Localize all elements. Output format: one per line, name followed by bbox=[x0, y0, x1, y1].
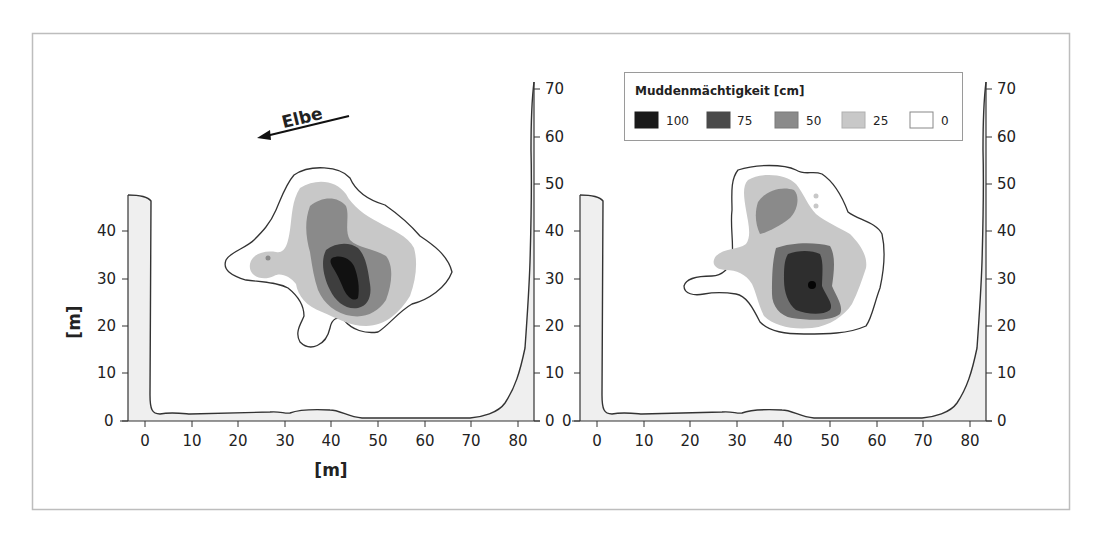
svg-text:0: 0 bbox=[545, 412, 555, 430]
legend-title: Muddenmächtigkeit [cm] bbox=[635, 84, 804, 98]
legend-swatch-100 bbox=[635, 112, 658, 128]
figure: Elbe 0 10 20 30 40 [m] 0 10 20 30 40 50 … bbox=[0, 0, 1101, 536]
svg-text:10: 10 bbox=[545, 364, 564, 382]
svg-text:40: 40 bbox=[773, 432, 792, 450]
svg-text:30: 30 bbox=[545, 270, 564, 288]
svg-text:50: 50 bbox=[820, 432, 839, 450]
svg-text:0: 0 bbox=[104, 412, 114, 430]
svg-text:20: 20 bbox=[228, 432, 247, 450]
legend-swatch-50 bbox=[775, 112, 798, 128]
svg-text:0: 0 bbox=[140, 432, 150, 450]
legend-label-0: 0 bbox=[941, 114, 949, 128]
svg-text:30: 30 bbox=[275, 432, 294, 450]
svg-text:60: 60 bbox=[997, 128, 1016, 146]
legend-swatch-25 bbox=[842, 112, 865, 128]
svg-text:30: 30 bbox=[997, 270, 1016, 288]
legend-label-75: 75 bbox=[737, 114, 752, 128]
svg-text:10: 10 bbox=[97, 364, 116, 382]
svg-text:30: 30 bbox=[727, 432, 746, 450]
svg-text:40: 40 bbox=[97, 222, 116, 240]
svg-text:80: 80 bbox=[508, 432, 527, 450]
legend-box bbox=[625, 73, 963, 141]
legend: Muddenmächtigkeit [cm] 100 75 50 25 0 bbox=[625, 73, 963, 141]
svg-text:20: 20 bbox=[680, 432, 699, 450]
svg-text:60: 60 bbox=[545, 128, 564, 146]
svg-text:50: 50 bbox=[545, 175, 564, 193]
svg-text:80: 80 bbox=[960, 432, 979, 450]
svg-text:20: 20 bbox=[997, 317, 1016, 335]
svg-text:50: 50 bbox=[997, 175, 1016, 193]
svg-text:40: 40 bbox=[997, 222, 1016, 240]
right-max-spot bbox=[808, 281, 816, 289]
svg-text:10: 10 bbox=[634, 432, 653, 450]
svg-text:40: 40 bbox=[321, 432, 340, 450]
svg-text:0: 0 bbox=[592, 432, 602, 450]
left-y-axis-title: [m] bbox=[64, 305, 84, 338]
right-small-spot-1 bbox=[814, 194, 819, 199]
legend-label-100: 100 bbox=[666, 114, 689, 128]
svg-text:60: 60 bbox=[415, 432, 434, 450]
svg-text:70: 70 bbox=[545, 80, 564, 98]
x-axis-title: [m] bbox=[314, 460, 347, 480]
svg-text:50: 50 bbox=[368, 432, 387, 450]
svg-text:70: 70 bbox=[997, 80, 1016, 98]
svg-text:10: 10 bbox=[997, 364, 1016, 382]
svg-text:40: 40 bbox=[545, 222, 564, 240]
svg-text:10: 10 bbox=[182, 432, 201, 450]
svg-text:30: 30 bbox=[97, 270, 116, 288]
svg-text:20: 20 bbox=[97, 317, 116, 335]
svg-text:0: 0 bbox=[997, 412, 1007, 430]
svg-text:0: 0 bbox=[562, 412, 572, 430]
legend-swatch-0 bbox=[910, 112, 933, 128]
legend-label-25: 25 bbox=[873, 114, 888, 128]
svg-text:20: 20 bbox=[545, 317, 564, 335]
svg-text:70: 70 bbox=[461, 432, 480, 450]
legend-swatch-75 bbox=[707, 112, 730, 128]
left-spot-50 bbox=[266, 256, 271, 261]
right-small-spot-2 bbox=[814, 204, 819, 209]
svg-text:70: 70 bbox=[913, 432, 932, 450]
right-panel-left-y-labels: 0 bbox=[562, 412, 572, 430]
svg-text:60: 60 bbox=[867, 432, 886, 450]
legend-label-50: 50 bbox=[806, 114, 821, 128]
